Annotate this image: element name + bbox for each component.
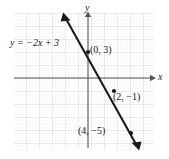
point-label-y-intercept: (0, 3) [90, 45, 112, 55]
equation-label: y = −2x + 3 [10, 38, 59, 48]
graph-figure: y x y = −2x + 3 (0, 3) (2, −1) (4, −5) [0, 0, 169, 159]
point-label-second: (2, −1) [113, 92, 140, 102]
point-label-third: (4, −5) [78, 126, 105, 136]
y-axis-label: y [85, 3, 89, 13]
point-marker [129, 131, 133, 135]
x-axis-label: x [158, 72, 162, 82]
